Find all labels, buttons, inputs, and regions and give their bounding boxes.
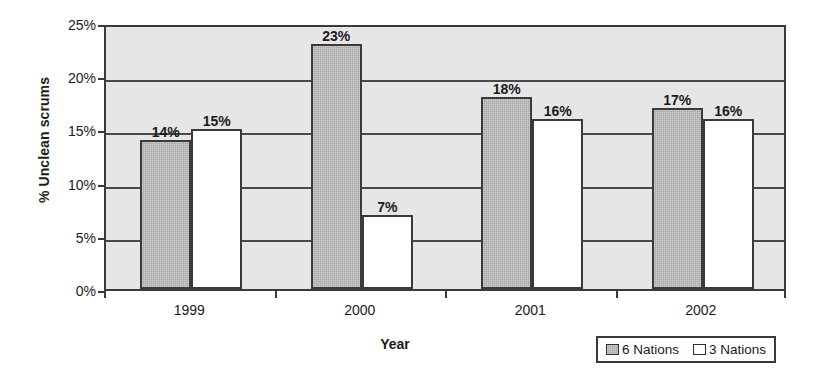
- legend-label: 6 Nations: [622, 343, 679, 357]
- legend-label: 3 Nations: [709, 343, 766, 357]
- bar-2001-3-nations: [532, 119, 583, 289]
- bar-value-label: 16%: [520, 104, 595, 118]
- x-axis-tick-label: 2001: [485, 303, 575, 318]
- legend-entry: 3 Nations: [693, 343, 766, 357]
- legend-swatch-icon: [693, 344, 706, 355]
- bar-value-label: 18%: [469, 82, 544, 96]
- y-axis-tick-label: 15%: [50, 124, 96, 138]
- y-axis-tick-mark: [98, 238, 104, 240]
- y-axis-tick-mark: [98, 185, 104, 187]
- bar-1999-3-nations: [191, 129, 242, 289]
- plot-area: 14%15%23%7%18%16%17%16%: [104, 25, 786, 291]
- legend-swatch-icon: [606, 344, 619, 355]
- gridline: [106, 80, 784, 82]
- y-axis-tick-label: 20%: [50, 71, 96, 85]
- x-axis-title: Year: [300, 336, 490, 352]
- x-axis-tick-label: 2002: [656, 303, 746, 318]
- y-axis-tick-mark: [98, 78, 104, 80]
- bar-2002-6-nations: [652, 108, 703, 289]
- bar-2002-3-nations: [703, 119, 754, 289]
- y-axis-tick-label: 0%: [50, 284, 96, 298]
- x-axis-tick-mark: [616, 291, 618, 298]
- y-axis-tick-labels: 0%5%10%15%20%25%: [44, 25, 96, 291]
- x-axis-ticks: [104, 291, 786, 299]
- chart-legend: 6 Nations3 Nations: [596, 336, 776, 363]
- bar-2000-6-nations: [311, 44, 362, 289]
- bar-value-label: 7%: [350, 200, 425, 214]
- bar-2000-3-nations: [362, 215, 413, 289]
- legend-entry: 6 Nations: [606, 343, 679, 357]
- x-axis-tick-mark: [784, 291, 786, 298]
- y-axis-tick-label: 10%: [50, 178, 96, 192]
- bar-value-label: 15%: [179, 114, 254, 128]
- bar-chart: % Unclean scrums 0%5%10%15%20%25% 14%15%…: [0, 0, 824, 375]
- x-axis-tick-mark: [104, 291, 106, 298]
- x-axis-tick-mark: [275, 291, 277, 298]
- bar-value-label: 23%: [299, 29, 374, 43]
- y-axis-tick-label: 5%: [50, 231, 96, 245]
- bar-value-label: 16%: [691, 104, 766, 118]
- y-axis-tick-label: 25%: [50, 18, 96, 32]
- x-axis-tick-label: 2000: [315, 303, 405, 318]
- y-axis-tick-mark: [98, 131, 104, 133]
- x-axis-tick-mark: [445, 291, 447, 298]
- bar-1999-6-nations: [140, 140, 191, 289]
- y-axis-tick-mark: [98, 25, 104, 27]
- bar-2001-6-nations: [481, 97, 532, 289]
- x-axis-tick-label: 1999: [144, 303, 234, 318]
- y-axis-tick-mark: [98, 291, 104, 293]
